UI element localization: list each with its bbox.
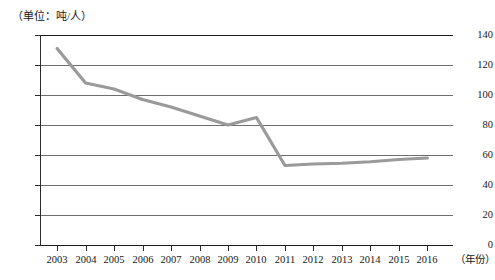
x-axis-tick-mark bbox=[86, 246, 87, 251]
gridline-100 bbox=[40, 95, 453, 96]
x-axis-tick-mark bbox=[313, 246, 314, 251]
y-axis-line bbox=[40, 35, 41, 246]
gridline-60 bbox=[40, 155, 453, 156]
x-axis-tick-mark bbox=[171, 246, 172, 251]
gridline-40 bbox=[40, 185, 453, 186]
unit-label: （单位：吨/人） bbox=[12, 9, 92, 23]
x-axis-tick-mark bbox=[200, 246, 201, 251]
y-axis-tick-label: 100 bbox=[459, 90, 493, 100]
y-axis-tick-label: 120 bbox=[459, 60, 493, 70]
y-axis-tick-label: 0 bbox=[459, 240, 493, 250]
series-line-tons-per-person bbox=[57, 49, 427, 166]
x-axis-tick-mark bbox=[342, 246, 343, 251]
x-axis-tick-mark bbox=[370, 246, 371, 251]
x-axis-tick-mark bbox=[228, 246, 229, 251]
x-axis-tick-mark bbox=[256, 246, 257, 251]
x-axis-tick-mark bbox=[399, 246, 400, 251]
gridline-140 bbox=[40, 35, 453, 36]
y-axis-tick-label: 60 bbox=[459, 150, 493, 160]
gridline-0 bbox=[40, 245, 453, 246]
y-axis-tick-label: 40 bbox=[459, 180, 493, 190]
y-axis-tick-label: 140 bbox=[459, 30, 493, 40]
y-axis-tick-label: 20 bbox=[459, 210, 493, 220]
x-axis-tick-mark bbox=[285, 246, 286, 251]
y-axis-tick-label: 80 bbox=[459, 120, 493, 130]
gridline-120 bbox=[40, 65, 453, 66]
x-axis-tick-label: 2016 bbox=[407, 254, 447, 266]
gridline-20 bbox=[40, 215, 453, 216]
x-axis-tick-mark bbox=[114, 246, 115, 251]
gridline-80 bbox=[40, 125, 453, 126]
x-axis-title: （年份） bbox=[455, 254, 495, 266]
x-axis-tick-mark bbox=[143, 246, 144, 251]
x-axis-tick-mark bbox=[427, 246, 428, 251]
x-axis-tick-mark bbox=[57, 246, 58, 251]
